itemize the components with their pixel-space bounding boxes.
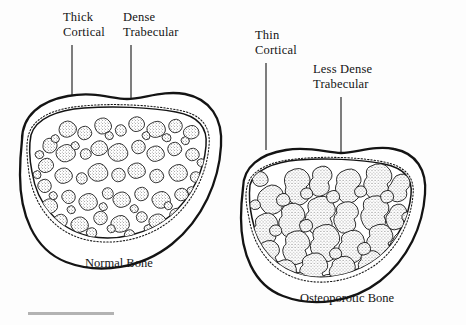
- label-less-dense-trabecular: Less Dense Trabecular: [313, 62, 372, 91]
- osteoporotic-bone-cross-section: [241, 148, 425, 302]
- footer-divider-rule: [28, 312, 114, 315]
- label-thick-cortical: Thick Cortical: [63, 10, 105, 39]
- label-thin-cortical: Thin Cortical: [255, 28, 297, 57]
- label-dense-trabecular: Dense Trabecular: [123, 10, 179, 39]
- caption-osteoporotic-bone: Osteoporotic Bone: [300, 291, 394, 306]
- figure-canvas: Thick Cortical Dense Trabecular Thin Cor…: [0, 0, 466, 325]
- bone-diagram-artwork: [0, 0, 466, 325]
- caption-normal-bone: Normal Bone: [85, 256, 153, 271]
- normal-bone-cross-section: [20, 93, 221, 268]
